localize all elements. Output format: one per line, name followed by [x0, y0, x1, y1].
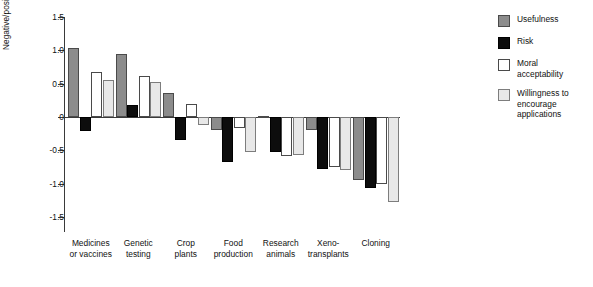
y-tick-label: 0	[24, 112, 64, 122]
legend-swatch-icon	[498, 59, 510, 71]
bar-moral	[186, 104, 197, 117]
legend-swatch-icon	[498, 89, 510, 101]
bar-moral	[139, 76, 150, 117]
plot-area	[65, 17, 400, 232]
y-tick-label: -0.5	[24, 145, 64, 155]
legend-label-line: Risk	[517, 36, 593, 47]
bar-willing	[198, 117, 209, 125]
legend-label-line: Willingness to	[517, 88, 593, 99]
y-tick-label: 0.5	[24, 79, 64, 89]
bar-chart: Negative/positive evaluation 1.51.00.50-…	[0, 0, 593, 287]
bar-risk	[317, 117, 328, 169]
legend-label-line: Moral	[517, 58, 593, 69]
bar-moral	[329, 117, 340, 167]
bar-group	[306, 17, 354, 232]
bar-moral	[281, 117, 292, 156]
bar-usefulness	[353, 117, 364, 180]
legend-label: Usefulness	[517, 14, 593, 25]
x-axis-label-line: transplants	[290, 249, 366, 260]
bar-usefulness	[68, 48, 79, 117]
legend-label: Moralacceptability	[517, 58, 593, 79]
legend-label: Risk	[517, 36, 593, 47]
legend-item-usefulness[interactable]: Usefulness	[498, 14, 593, 27]
bar-risk	[222, 117, 233, 162]
bar-willing	[388, 117, 399, 202]
bar-moral	[91, 72, 102, 117]
bar-willing	[150, 82, 161, 117]
bar-group	[211, 17, 259, 232]
y-tick-label: -1.5	[24, 212, 64, 222]
bar-usefulness	[116, 54, 127, 117]
bar-usefulness	[163, 93, 174, 117]
bar-usefulness	[211, 117, 222, 130]
y-axis-title: Negative/positive evaluation	[2, 0, 11, 50]
bar-willing	[245, 117, 256, 152]
legend-label: Willingness toencourageapplications	[517, 88, 593, 120]
y-tick-label: 1.0	[24, 45, 64, 55]
legend-label-line: Usefulness	[517, 14, 593, 25]
x-axis-label-line: Cloning	[338, 238, 414, 249]
bar-risk	[270, 117, 281, 152]
legend-label-line: applications	[517, 109, 593, 120]
bar-group	[68, 17, 116, 232]
legend-swatch-icon	[498, 37, 510, 49]
bar-willing	[340, 117, 351, 170]
legend-swatch-icon	[498, 15, 510, 27]
bar-group	[116, 17, 164, 232]
bar-group	[258, 17, 306, 232]
bar-group	[163, 17, 211, 232]
x-axis-label: Cloning	[338, 238, 414, 249]
bar-willing	[103, 80, 114, 117]
bar-risk	[80, 117, 91, 131]
legend-item-moral[interactable]: Moralacceptability	[498, 58, 593, 79]
bar-moral	[234, 117, 245, 128]
bar-usefulness	[258, 116, 269, 118]
bar-group	[353, 17, 401, 232]
legend-item-risk[interactable]: Risk	[498, 36, 593, 49]
y-tick-label: 1.5	[24, 12, 64, 22]
legend-label-line: encourage	[517, 99, 593, 110]
bar-risk	[127, 105, 138, 117]
legend-item-willing[interactable]: Willingness toencourageapplications	[498, 88, 593, 120]
bar-risk	[175, 117, 186, 140]
bar-risk	[365, 117, 376, 188]
bar-willing	[293, 117, 304, 155]
bar-moral	[376, 117, 387, 184]
bar-usefulness	[306, 117, 317, 130]
legend-label-line: acceptability	[517, 69, 593, 80]
chart-legend: UsefulnessRiskMoralacceptabilityWillingn…	[498, 14, 593, 129]
y-tick-label: -1.0	[24, 179, 64, 189]
